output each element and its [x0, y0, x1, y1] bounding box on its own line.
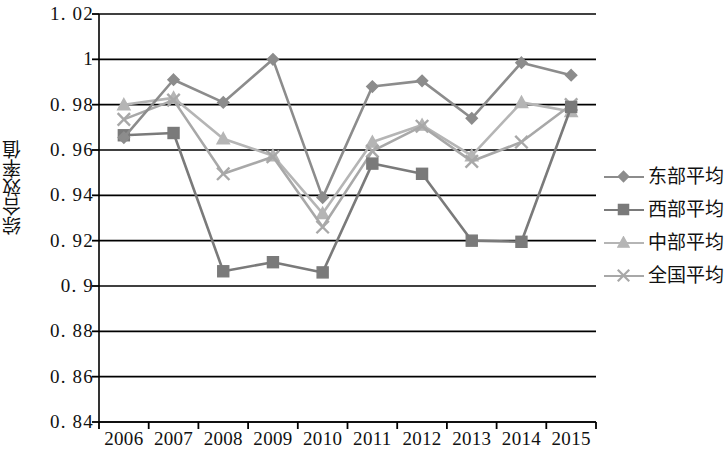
legend-marker-square-icon	[604, 200, 644, 220]
data-point-diamond	[367, 81, 378, 92]
data-point-square	[466, 235, 477, 246]
legend-item-1[interactable]: 东部平均	[604, 160, 720, 193]
series-3	[118, 92, 578, 219]
x-icon	[617, 269, 630, 282]
data-point-square	[417, 168, 428, 179]
y-axis-title: 综合效率值	[2, 140, 28, 235]
legend-label: 东部平均	[644, 167, 724, 187]
x-tick-label: 2009	[247, 428, 299, 450]
legend-label: 全国平均	[644, 266, 724, 286]
data-point-square	[267, 257, 278, 268]
data-point-square	[168, 128, 179, 139]
x-tick-label: 2015	[545, 428, 597, 450]
x-tick-label: 2013	[446, 428, 498, 450]
y-tick-text: 1	[83, 49, 94, 68]
legend-marker-x-icon	[604, 266, 644, 286]
data-point-square	[218, 266, 229, 277]
data-point-diamond	[618, 171, 628, 181]
diamond-icon	[617, 170, 630, 183]
data-point-x	[316, 221, 328, 233]
x-tick-label: 2006	[98, 428, 150, 450]
x-tick-label: 2012	[396, 428, 448, 450]
data-point-triangle	[515, 96, 527, 107]
chart-legend: 东部平均西部平均中部平均全国平均	[604, 160, 720, 292]
y-tick-text: 0. 9	[61, 276, 94, 295]
y-tick-text: 0. 86	[50, 367, 94, 386]
x-tick-label: 2010	[297, 428, 349, 450]
x-tick-label: 2008	[197, 428, 249, 450]
data-point-square	[516, 236, 527, 247]
legend-item-4[interactable]: 全国平均	[604, 259, 720, 292]
x-tick-label: 2007	[148, 428, 200, 450]
data-point-x	[618, 269, 630, 281]
square-icon	[617, 203, 630, 216]
y-tick-text: 1. 02	[50, 4, 94, 23]
y-tick-text: 0. 88	[50, 321, 94, 340]
data-point-x	[515, 136, 527, 148]
legend-label: 西部平均	[644, 200, 724, 220]
data-point-square	[317, 267, 328, 278]
y-tick-text: 0. 84	[50, 412, 94, 431]
data-point-square	[367, 158, 378, 169]
data-point-x	[118, 113, 130, 125]
data-point-diamond	[566, 70, 577, 81]
data-point-square	[566, 101, 577, 112]
axes	[92, 14, 596, 429]
data-point-square	[618, 204, 628, 214]
legend-label: 中部平均	[644, 233, 724, 253]
x-tick-label: 2014	[495, 428, 547, 450]
y-tick-text: 0. 94	[50, 185, 94, 204]
y-tick-text: 0. 98	[50, 95, 94, 114]
series-1	[118, 54, 576, 203]
legend-item-2[interactable]: 西部平均	[604, 193, 720, 226]
legend-item-3[interactable]: 中部平均	[604, 226, 720, 259]
x-tick-label: 2011	[346, 428, 398, 450]
triangle-icon	[617, 236, 630, 249]
data-point-diamond	[317, 192, 328, 203]
data-point-triangle	[618, 236, 630, 246]
legend-marker-triangle-icon	[604, 233, 644, 253]
y-tick-text: 0. 96	[50, 140, 94, 159]
y-tick-text: 0. 92	[50, 231, 94, 250]
data-point-x	[217, 168, 229, 180]
legend-marker-diamond-icon	[604, 167, 644, 187]
